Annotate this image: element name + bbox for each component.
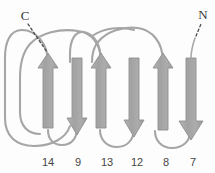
label-n-terminus: N	[198, 7, 208, 22]
strand-14	[38, 53, 58, 128]
c-terminus-leader	[28, 24, 47, 52]
label-c-terminus: C	[21, 8, 30, 23]
topology-diagram: C N 14 9 13 12 8 7	[0, 0, 215, 173]
loop-s14-to-c	[5, 30, 70, 146]
loop-inner-left-wrap	[20, 30, 101, 134]
strand-7	[179, 58, 203, 140]
strand-9	[67, 58, 87, 135]
strand-label-14: 14	[42, 156, 54, 168]
strand-label-8: 8	[163, 156, 169, 168]
strand-label-13: 13	[101, 156, 113, 168]
loop-s12-to-s13	[100, 128, 134, 147]
protein-topology-figure: C N 14 9 13 12 8 7	[0, 0, 215, 173]
strand-13	[91, 53, 111, 128]
strand-12	[124, 58, 144, 137]
strand-8	[153, 53, 173, 130]
loop-s13-to-s9	[70, 32, 101, 62]
strand-label-7: 7	[190, 156, 196, 168]
strand-label-12: 12	[131, 156, 143, 168]
strand-label-9: 9	[75, 156, 81, 168]
n-terminus-tail	[191, 24, 201, 58]
